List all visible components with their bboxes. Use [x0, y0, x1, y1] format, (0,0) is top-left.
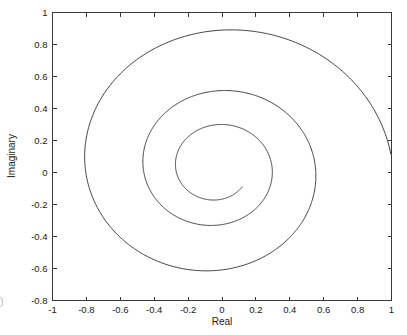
y-tick-label: 0.4 — [34, 103, 47, 114]
y-tick-label: -0.4 — [31, 231, 47, 242]
y-tick-label: -0.8 — [31, 295, 47, 306]
x-axis-tick-labels: -1-0.8-0.6-0.4-0.200.20.40.60.81 — [48, 304, 394, 315]
spiral-plot: -1-0.8-0.6-0.4-0.200.20.40.60.81 -0.8-0.… — [0, 0, 407, 335]
y-tick-label: 1 — [42, 7, 47, 18]
y-tick-label: -0.2 — [31, 199, 47, 210]
x-axis-ticks — [53, 13, 392, 301]
x-tick-label: -0.8 — [78, 304, 94, 315]
y-tick-label: 0.2 — [34, 135, 47, 146]
x-tick-label: 0.8 — [351, 304, 364, 315]
y-tick-label: 0 — [42, 167, 47, 178]
y-tick-label: 0.8 — [34, 39, 47, 50]
x-tick-label: -0.4 — [146, 304, 162, 315]
x-tick-label: -0.2 — [180, 304, 196, 315]
y-tick-label: 0.6 — [34, 71, 47, 82]
figure-canvas: ) -1-0.8-0.6-0.4-0.200.20.40.60.81 -0.8-… — [0, 0, 407, 335]
axis-frame — [53, 13, 392, 301]
y-axis-tick-labels: -0.8-0.6-0.4-0.200.20.40.60.81 — [31, 7, 47, 306]
page-edge-artifact: ) — [0, 296, 4, 307]
spiral-curve — [85, 30, 391, 271]
y-axis-ticks — [53, 13, 392, 301]
x-tick-label: 0.4 — [283, 304, 296, 315]
y-tick-label: -0.6 — [31, 263, 47, 274]
y-axis-label: Imaginary — [6, 134, 17, 178]
x-tick-label: 1 — [389, 304, 394, 315]
x-tick-label: 0 — [219, 304, 224, 315]
x-tick-label: -1 — [48, 304, 56, 315]
x-tick-label: -0.6 — [112, 304, 128, 315]
x-axis-label: Real — [212, 316, 233, 327]
x-tick-label: 0.6 — [317, 304, 330, 315]
x-tick-label: 0.2 — [249, 304, 262, 315]
